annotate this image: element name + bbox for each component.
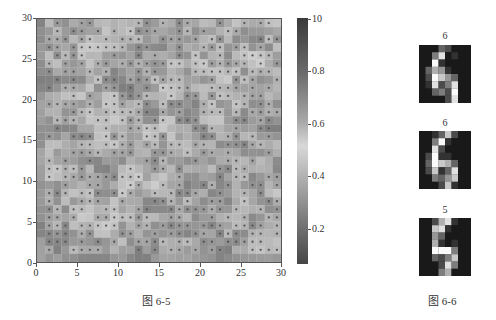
digit-image: [419, 218, 471, 276]
digit-title: 5: [419, 204, 471, 215]
digit-title: 6: [419, 117, 471, 128]
y-tick-label: 30: [16, 13, 32, 23]
colorbar-tick-label: 10: [312, 14, 322, 24]
som-heatmap-plot-area: [36, 18, 282, 263]
colorbar-tick-mark: [308, 19, 311, 20]
y-tick-label: 10: [16, 176, 32, 186]
y-tick-mark: [33, 140, 37, 141]
colorbar-tick-mark: [308, 71, 311, 72]
y-tick-mark: [33, 181, 37, 182]
colorbar-tick-mark: [308, 229, 311, 230]
x-tick-label: 25: [231, 268, 251, 278]
y-tick-label: 20: [16, 95, 32, 105]
digit-image: [419, 45, 471, 103]
colorbar-tick-label: 0.6: [312, 119, 325, 129]
colorbar-tick-label: 0.4: [312, 171, 325, 181]
x-tick-label: 10: [108, 268, 128, 278]
colorbar-tick-label: 0.2: [312, 224, 325, 234]
figure-caption-6-6: 图 6-6: [428, 292, 456, 308]
som-heatmap-cells: [37, 19, 281, 262]
x-tick-label: 5: [67, 268, 87, 278]
y-tick-label: 25: [16, 54, 32, 64]
digit-title: 6: [419, 30, 471, 41]
colorbar-tick-label: 0.8: [312, 66, 325, 76]
y-tick-mark: [33, 59, 37, 60]
y-tick-label: 5: [16, 217, 32, 227]
figure-caption-6-5: 图 6-5: [142, 292, 170, 308]
y-tick-mark: [33, 18, 37, 19]
x-tick-label: 20: [190, 268, 210, 278]
colorbar-tick-mark: [308, 124, 311, 125]
x-tick-label: 0: [26, 268, 46, 278]
digit-image: [419, 131, 471, 189]
y-tick-label: 15: [16, 135, 32, 145]
x-tick-label: 30: [271, 268, 291, 278]
y-tick-label: 0: [16, 258, 32, 268]
colorbar: [297, 18, 308, 264]
y-tick-mark: [33, 222, 37, 223]
colorbar-tick-mark: [308, 176, 311, 177]
y-tick-mark: [33, 100, 37, 101]
x-tick-label: 15: [149, 268, 169, 278]
